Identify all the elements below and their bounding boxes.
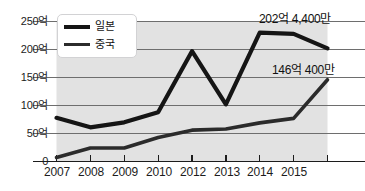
- y-tick-label-200: 200억: [0, 44, 48, 55]
- x-tick-label-7: 2015: [268, 166, 320, 178]
- chart-plot-area: [0, 0, 365, 191]
- legend-item-china: 중국: [64, 39, 114, 50]
- chart-legend: 일본 중국: [57, 14, 137, 58]
- line-chart: 250억 200억 150억 100억 50억 0 2007 2008 2009…: [0, 0, 365, 191]
- annotation-japan-2015: 202억 4,400만: [259, 13, 331, 25]
- legend-swatch-china-icon: [64, 43, 90, 46]
- legend-swatch-japan-icon: [64, 25, 90, 29]
- legend-label-japan: 일본: [95, 21, 114, 32]
- legend-item-japan: 일본: [64, 21, 114, 32]
- legend-label-china: 중국: [95, 39, 114, 50]
- annotation-china-2015: 146억 400만: [272, 64, 335, 76]
- y-tick-label-50: 50억: [0, 128, 48, 139]
- y-tick-label-100: 100억: [0, 100, 48, 111]
- y-tick-label-250: 250억: [0, 16, 48, 27]
- y-tick-label-150: 150억: [0, 72, 48, 83]
